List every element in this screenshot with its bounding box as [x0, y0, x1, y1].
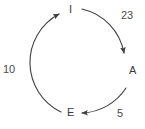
node-label-a: A	[129, 65, 136, 76]
edge-label-e-to-i: 10	[3, 64, 15, 75]
edge-arc-i-to-a	[82, 9, 124, 53]
edge-label-a-to-e: 5	[117, 108, 123, 119]
cycle-diagram: I A E 23 5 10	[0, 0, 145, 129]
edge-label-i-to-a: 23	[121, 10, 133, 21]
node-label-i: I	[69, 4, 72, 15]
edge-arc-e-to-i	[30, 14, 61, 112]
node-label-e: E	[67, 107, 74, 118]
